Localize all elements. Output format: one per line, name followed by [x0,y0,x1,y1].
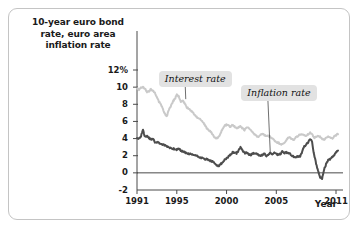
chart-figure: 10-year euro bond rate, euro area inflat… [8,8,350,220]
x-tick-label: 2000 [213,196,241,206]
y-tick-label: 12% [108,65,128,75]
y-tick-label: 10 [116,82,128,92]
x-tick-label: 1991 [123,196,151,206]
series-label-inflation-rate: Inflation rate [241,85,316,101]
series-label-interest-rate: Interest rate [159,71,232,87]
y-tick-label: 6 [122,116,128,126]
y-tick-label: 4 [122,133,128,143]
x-axis-name: Year [315,199,337,209]
y-tick-label: 2 [122,150,128,160]
x-tick-label: 1995 [163,196,191,206]
y-tick-label: -2 [119,185,128,195]
y-tick-label: 8 [122,99,128,109]
y-tick-label: 0 [122,167,128,177]
x-tick-label: 2005 [262,196,290,206]
chart-plot-area [9,9,351,221]
